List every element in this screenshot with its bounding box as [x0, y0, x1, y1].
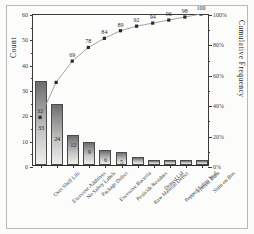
bar-6 — [132, 157, 144, 165]
y-axis-tick-label-right: 80% — [213, 42, 224, 48]
y-axis-tick-label-left: 50 — [22, 37, 28, 43]
cumulative-point-label-0: 32 — [37, 108, 43, 114]
y-axis-tick-label-left: 30 — [22, 88, 28, 94]
y-axis-minor-tick-right — [208, 121, 210, 122]
x-axis-tick — [41, 165, 42, 168]
y-axis-minor-tick-left — [31, 129, 33, 130]
y-axis-tick-left — [30, 66, 34, 67]
y-axis-minor-tick-right — [208, 30, 210, 31]
cumulative-point-label-7: 94 — [150, 14, 156, 20]
cumulative-point-label-3: 78 — [85, 38, 91, 44]
y-axis-tick-label-right: 40% — [213, 103, 224, 109]
y-axis-title-left: Count — [9, 37, 18, 58]
plot-area: 01020304050600%20%40%60%80%100%332412965 — [32, 14, 209, 166]
cumulative-point-label-9: 98 — [182, 8, 188, 14]
y-axis-tick-left — [30, 116, 34, 117]
y-axis-minor-tick-right — [208, 152, 210, 153]
bar-value-label-4: 6 — [99, 156, 111, 163]
y-axis-tick-label-left: 20 — [22, 113, 28, 119]
y-axis-tick-left — [30, 167, 34, 168]
y-axis-minor-tick-right — [208, 61, 210, 62]
y-axis-minor-tick-left — [31, 53, 33, 54]
y-axis-tick-right — [208, 167, 212, 168]
y-axis-tick-left — [30, 142, 34, 143]
x-axis-tick — [154, 165, 155, 168]
y-axis-tick-label-left: 0 — [25, 164, 28, 170]
y-axis-tick-right — [208, 45, 212, 46]
y-axis-tick-label-left: 10 — [22, 139, 28, 145]
x-axis-tick — [122, 165, 123, 168]
x-axis-tick — [89, 165, 90, 168]
y-axis-tick-left — [30, 91, 34, 92]
y-axis-tick-left — [30, 15, 34, 16]
x-axis-tick — [170, 165, 171, 168]
cumulative-point-label-10: 100 — [196, 5, 205, 11]
bar-2 — [67, 135, 79, 165]
y-axis-tick-label-left: 60 — [22, 12, 28, 18]
y-axis-tick-label-right: 60% — [213, 73, 224, 79]
x-axis-tick — [186, 165, 187, 168]
y-axis-minor-tick-left — [31, 28, 33, 29]
cumulative-point-label-4: 84 — [101, 29, 107, 35]
y-axis-minor-tick-right — [208, 91, 210, 92]
y-axis-minor-tick-left — [31, 78, 33, 79]
chart-figure: Count Cumulative Frequency 0102030405060… — [0, 0, 254, 234]
x-axis-tick — [57, 165, 58, 168]
y-axis-tick-label-right: 20% — [213, 134, 224, 140]
x-axis-tick — [105, 165, 106, 168]
bar-value-label-1: 24 — [51, 135, 63, 142]
bar-value-label-2: 12 — [67, 141, 79, 148]
x-axis-tick — [202, 165, 203, 168]
y-axis-minor-tick-left — [31, 154, 33, 155]
bar-value-label-0: 33 — [35, 124, 47, 131]
y-axis-tick-right — [208, 15, 212, 16]
y-axis-tick-right — [208, 106, 212, 107]
y-axis-minor-tick-left — [31, 104, 33, 105]
y-axis-tick-label-right: 0% — [213, 164, 221, 170]
x-axis-tick — [73, 165, 74, 168]
cumulative-point-label-5: 89 — [117, 22, 123, 28]
bar-value-label-3: 9 — [83, 148, 95, 155]
y-axis-tick-right — [208, 137, 212, 138]
y-axis-tick-label-left: 40 — [22, 63, 28, 69]
cumulative-point-label-8: 96 — [166, 11, 172, 17]
y-axis-tick-left — [30, 40, 34, 41]
y-axis-title-right: Cumulative Frequency — [237, 20, 246, 98]
y-axis-tick-right — [208, 76, 212, 77]
cumulative-point-label-2: 69 — [69, 52, 75, 58]
cumulative-point-label-6: 92 — [134, 17, 140, 23]
x-axis-tick — [138, 165, 139, 168]
y-axis-tick-label-right: 100% — [213, 12, 227, 18]
